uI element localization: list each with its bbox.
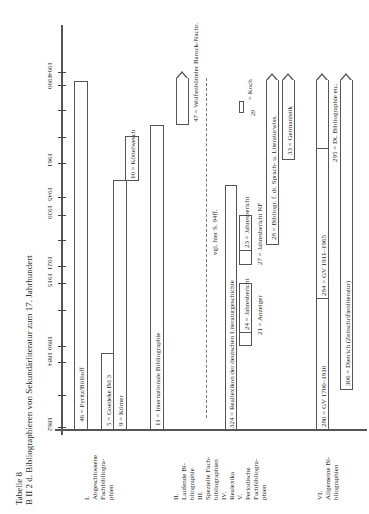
- axis-tick: [58, 85, 66, 86]
- axis-tick: [58, 197, 66, 198]
- category-label: II. Laufende Bi- bliographie III. Spezie…: [172, 457, 268, 500]
- bar-28: 28 = Bibliogr. f. dt. Sprach- u. Literat…: [266, 80, 279, 245]
- bar-324: 324 = Reallexikon der deutschen Literatu…: [225, 185, 237, 430]
- bar-33: 33 = Germanistik: [282, 80, 295, 160]
- bar-label: 46 = Pyritz/Bölhoff: [78, 367, 86, 422]
- bar-label: 11 = Internationale Bibliographie: [154, 333, 162, 426]
- open-end-arrow-fill: [267, 75, 277, 81]
- year-label: 1990: [46, 75, 54, 89]
- dashed-range: [206, 78, 207, 418]
- axis-tick: [58, 427, 66, 428]
- bar-label: 23 = Jahresbericht: [243, 197, 251, 248]
- bar-label: 10 = Köttelwesch: [129, 130, 137, 179]
- bar-label: 9 = Körner: [117, 395, 125, 426]
- axis-tick-minor: [58, 110, 66, 111]
- axis-tick-minor: [58, 395, 66, 396]
- bar-koch: [239, 101, 244, 113]
- bar-280: 280 = GV 1700–1910: [316, 298, 329, 430]
- bar-23: 23 = Jahresbericht: [239, 215, 252, 265]
- bar-label: 284 = GV 1911–1965: [320, 235, 328, 296]
- year-label: 1945: [46, 187, 54, 201]
- year-axis: [61, 25, 63, 435]
- open-end-arrow-fill: [317, 75, 327, 81]
- label-21: 21 = Anzeiger: [256, 295, 264, 335]
- title-line-1: Tabelle 8: [14, 255, 24, 505]
- label-koch-num: 29: [250, 110, 256, 116]
- axis-tick: [58, 266, 66, 267]
- bar-label: 33 = Germanistik: [286, 106, 294, 155]
- note-vgl: vgl. hier S. 94ff.: [211, 209, 219, 255]
- year-label: 1961: [46, 153, 54, 167]
- axis-tick: [58, 215, 66, 216]
- open-end-arrow-fill: [283, 75, 293, 81]
- bar-295-upper: [316, 80, 329, 149]
- year-label: 1862: [46, 417, 54, 431]
- year-label: 1994: [46, 62, 54, 76]
- axis-tick: [58, 283, 66, 284]
- label-koch: = Koch: [246, 79, 254, 100]
- bar-label: 324 = Reallexikon der deutschen Literatu…: [228, 280, 236, 428]
- bar-284: 284 = GV 1911–1965: [316, 148, 329, 299]
- axis-tick-minor: [58, 310, 66, 311]
- category-label: I. Abgeschlossene Fachbibliogra- phien: [83, 455, 115, 500]
- axis-tick-minor: [58, 137, 66, 138]
- bar-label: 280 = GV 1700–1910: [320, 366, 328, 427]
- year-label: 1939: [46, 205, 54, 219]
- bar-label: 306 = Dietrich (Zeitschriftenliteratur): [344, 281, 352, 386]
- bar-label: 24 = Jahresbericht: [243, 279, 251, 330]
- title-line-2: B II 2 d. Bibliographieren von Sekundärl…: [24, 255, 34, 505]
- axis-tick: [58, 72, 66, 73]
- axis-tick-minor: [58, 240, 66, 241]
- axis-tick: [58, 163, 66, 164]
- open-end-arrow-fill: [177, 73, 187, 79]
- year-label: 1915: [46, 273, 54, 287]
- open-end-arrow-fill: [341, 75, 351, 81]
- bar-9: 9 = Körner: [113, 180, 127, 430]
- bar-label: 28 = Bibliogr. f. dt. Sprach- u. Literat…: [270, 115, 278, 240]
- label-295: 295 = Dt. Bibliographie etc.: [331, 83, 339, 162]
- label-27: 27 = Jahresbericht NF: [256, 203, 264, 265]
- bar-46: 46 = Pyritz/Bölhoff: [74, 81, 88, 430]
- category-label: VI. Allgemeine Bi- bliographien: [316, 457, 340, 500]
- year-label: 1884: [46, 352, 54, 366]
- bar-label-47: 47 = Wolfenbütteler Barock-Nachr.: [192, 23, 200, 122]
- year-label: 1890: [46, 336, 54, 350]
- bar-24: 24 = Jahresbericht: [239, 283, 252, 346]
- bar-306: 306 = Dietrich (Zeitschriftenliteratur): [340, 80, 353, 390]
- year-label: 1921: [46, 256, 54, 270]
- axis-tick: [58, 346, 66, 347]
- bar-47: [176, 78, 189, 125]
- table-title: Tabelle 8 B II 2 d. Bibliographieren von…: [14, 255, 34, 505]
- bar-10: 10 = Köttelwesch: [125, 136, 139, 181]
- bar-label: 5 = Goedeke Bd 3: [105, 375, 113, 426]
- axis-tick: [58, 362, 66, 363]
- bar-11: 11 = Internationale Bibliographie: [150, 125, 164, 430]
